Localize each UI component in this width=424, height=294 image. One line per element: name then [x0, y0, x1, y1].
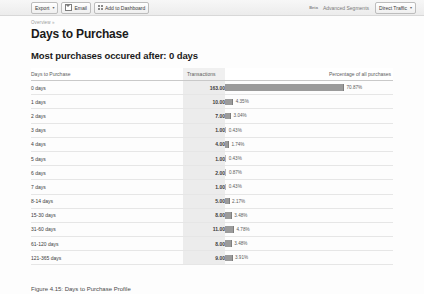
- percentage-bar: [225, 99, 233, 106]
- percentage-bar-wrapper: 0.43%: [225, 155, 393, 162]
- breadcrumb[interactable]: Overview »: [31, 20, 55, 25]
- table-row[interactable]: 6 days2.000.87%: [31, 166, 393, 180]
- cell-percentage: 4.78%: [225, 222, 393, 236]
- cell-transactions: 4.00: [183, 137, 225, 151]
- percentage-bar: [225, 169, 226, 176]
- cell-days: 0 days: [31, 81, 183, 95]
- cell-transactions: 10.00: [183, 95, 225, 109]
- percentage-label: 0.43%: [229, 128, 242, 133]
- percentage-label: 3.48%: [234, 241, 247, 246]
- table-row[interactable]: 15-30 days8.003.48%: [31, 208, 393, 222]
- cell-transactions: 8.00: [183, 208, 225, 222]
- percentage-bar-wrapper: 0.43%: [225, 127, 393, 134]
- percentage-bar: [225, 184, 226, 191]
- days-to-purchase-table: Days to Purchase Transactions Percentage…: [31, 68, 393, 265]
- percentage-label: 0.87%: [229, 170, 242, 175]
- advanced-segments-label[interactable]: Advanced Segments: [323, 5, 369, 11]
- add-to-dashboard-button[interactable]: Add to Dashboard: [94, 2, 149, 14]
- percentage-bar: [225, 212, 232, 219]
- cell-days: 7 days: [31, 180, 183, 194]
- table-row[interactable]: 7 days1.000.43%: [31, 180, 393, 194]
- column-header-transactions[interactable]: Transactions: [183, 68, 225, 81]
- cell-percentage: 0.43%: [225, 180, 393, 194]
- cell-days: 3 days: [31, 123, 183, 137]
- figure-caption: Figure 4.15: Days to Purchase Profile: [31, 286, 131, 292]
- cell-days: 31-60 days: [31, 222, 183, 236]
- percentage-bar: [225, 226, 234, 233]
- table-row[interactable]: 1 days10.004.35%: [31, 95, 393, 109]
- cell-transactions: 11.00: [183, 222, 225, 236]
- cell-percentage: 4.35%: [225, 95, 393, 109]
- percentage-bar-wrapper: 3.04%: [225, 112, 393, 119]
- percentage-bar: [225, 255, 233, 262]
- cell-percentage: 0.43%: [225, 151, 393, 165]
- table-row[interactable]: 4 days4.001.74%: [31, 137, 393, 151]
- percentage-label: 3.48%: [234, 213, 247, 218]
- cell-days: 8-14 days: [31, 194, 183, 208]
- table-row[interactable]: 8-14 days5.002.17%: [31, 194, 393, 208]
- percentage-label: 0.43%: [229, 156, 242, 161]
- cell-transactions: 8.00: [183, 237, 225, 251]
- percentage-bar-wrapper: 70.87%: [225, 84, 393, 91]
- percentage-label: 2.17%: [232, 199, 245, 204]
- percentage-bar-wrapper: 0.43%: [225, 183, 393, 190]
- percentage-bar: [225, 113, 231, 120]
- table-header: Days to Purchase Transactions Percentage…: [31, 68, 393, 81]
- chevron-down-icon: ▾: [52, 3, 54, 13]
- table-row[interactable]: 61-120 days8.003.48%: [31, 237, 393, 251]
- cell-days: 2 days: [31, 109, 183, 123]
- percentage-bar: [225, 155, 226, 162]
- table-row[interactable]: 31-60 days11.004.78%: [31, 222, 393, 236]
- cell-percentage: 3.48%: [225, 208, 393, 222]
- envelope-icon: [65, 4, 72, 11]
- percentage-bar: [225, 141, 229, 148]
- cell-percentage: 3.48%: [225, 237, 393, 251]
- segment-selector[interactable]: Direct Traffic ▾: [375, 2, 416, 14]
- cell-percentage: 70.87%: [225, 81, 393, 95]
- cell-percentage: 3.91%: [225, 251, 393, 265]
- percentage-bar: [225, 84, 344, 91]
- cell-percentage: 2.17%: [225, 194, 393, 208]
- table-body: 0 days163.0070.87%1 days10.004.35%2 days…: [31, 81, 393, 265]
- percentage-bar: [225, 198, 230, 205]
- cell-transactions: 5.00: [183, 194, 225, 208]
- column-header-days[interactable]: Days to Purchase: [31, 68, 183, 81]
- cell-transactions: 2.00: [183, 166, 225, 180]
- percentage-label: 3.04%: [234, 113, 247, 118]
- percentage-label: 1.74%: [231, 142, 244, 147]
- table-row[interactable]: 5 days1.000.43%: [31, 151, 393, 165]
- table-row[interactable]: 2 days7.003.04%: [31, 109, 393, 123]
- table-row[interactable]: 3 days1.000.43%: [31, 123, 393, 137]
- table-row[interactable]: 0 days163.0070.87%: [31, 81, 393, 95]
- cell-days: 121-365 days: [31, 251, 183, 265]
- percentage-label: 70.87%: [347, 85, 363, 90]
- cell-percentage: 3.04%: [225, 109, 393, 123]
- cell-percentage: 0.87%: [225, 166, 393, 180]
- email-button-label: Email: [74, 3, 87, 13]
- table-row[interactable]: 121-365 days9.003.91%: [31, 251, 393, 265]
- cell-days: 61-120 days: [31, 237, 183, 251]
- cell-transactions: 163.00: [183, 81, 225, 95]
- segment-selector-value: Direct Traffic: [379, 3, 407, 13]
- percentage-label: 4.35%: [236, 99, 249, 104]
- cell-days: 4 days: [31, 137, 183, 151]
- cell-transactions: 9.00: [183, 251, 225, 265]
- export-button[interactable]: Export ▾: [31, 2, 58, 14]
- cell-days: 5 days: [31, 151, 183, 165]
- column-header-percentage[interactable]: Percentage of all purchases: [225, 68, 393, 81]
- toolbar-right-group: Beta Advanced Segments Direct Traffic ▾: [309, 2, 416, 14]
- cell-percentage: 1.74%: [225, 137, 393, 151]
- grid-icon: [98, 5, 103, 10]
- percentage-label: 3.91%: [235, 255, 248, 260]
- percentage-bar-wrapper: 4.35%: [225, 98, 393, 105]
- cell-days: 15-30 days: [31, 208, 183, 222]
- email-button[interactable]: Email: [61, 2, 91, 14]
- report-toolbar: Export ▾ Email Add to Dashboard Beta Adv…: [0, 0, 424, 16]
- percentage-bar: [225, 127, 226, 134]
- cell-transactions: 1.00: [183, 151, 225, 165]
- export-button-label: Export: [35, 3, 49, 13]
- report-page: Export ▾ Email Add to Dashboard Beta Adv…: [0, 0, 424, 294]
- percentage-bar-wrapper: 0.87%: [225, 169, 393, 176]
- percentage-bar-wrapper: 3.48%: [225, 212, 393, 219]
- breadcrumb-item-overview[interactable]: Overview: [31, 20, 51, 25]
